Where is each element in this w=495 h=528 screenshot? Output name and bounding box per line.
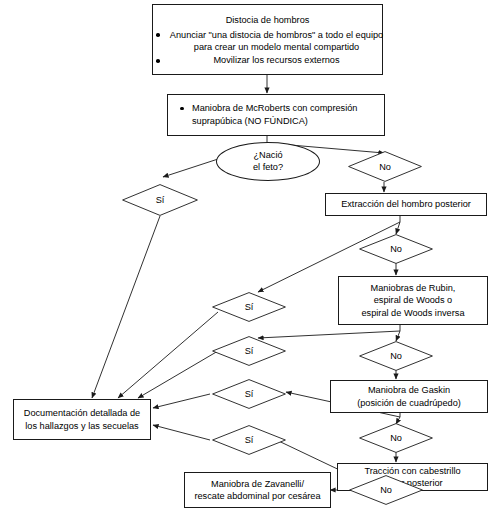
start-box-title: Distocia de hombros — [226, 11, 310, 28]
no-5-label: No — [380, 485, 392, 495]
node-no-1: No — [348, 151, 422, 182]
node-no-4: No — [359, 423, 433, 453]
mcroberts-bullets: Maniobra de McRoberts con compresión sup… — [168, 102, 384, 128]
no-2-label: No — [390, 244, 402, 254]
node-was-fetus-born-question: ¿Nació el feto? — [216, 142, 320, 181]
node-no-2: No — [359, 234, 433, 264]
node-no-5: No — [349, 475, 423, 505]
gaskin-label: Maniobra de Gaskin (posición de cuadrúpe… — [353, 384, 465, 408]
node-yes-a: Sí — [212, 292, 286, 322]
node-yes-c: Sí — [212, 379, 286, 409]
yes-a-label: Sí — [245, 302, 254, 312]
yes-left-label: Sí — [156, 195, 165, 205]
yes-c-label: Sí — [245, 389, 254, 399]
documentation-label: Documentación detallada de los hallazgos… — [20, 407, 144, 431]
start-bullet-2: Movilizar los recursos externos — [156, 54, 385, 66]
node-yes-b: Sí — [212, 336, 286, 366]
posterior-shoulder-label: Extracción del hombro posterior — [337, 198, 475, 210]
node-yes-d: Sí — [212, 425, 286, 455]
node-yes-left: Sí — [122, 184, 198, 216]
mcroberts-bullet-1: Maniobra de McRoberts con compresión sup… — [180, 102, 378, 127]
no-3-label: No — [390, 351, 402, 361]
node-mcroberts-maneuver: Maniobra de McRoberts con compresión sup… — [167, 94, 385, 136]
node-documentation: Documentación detallada de los hallazgos… — [13, 399, 151, 440]
start-box-bullets: Anunciar "una distocia de hombros" a tod… — [144, 29, 391, 68]
yes-b-label: Sí — [245, 346, 254, 356]
node-zavanelli-maneuver: Maniobra de Zavanelli/ rescate abdominal… — [184, 472, 331, 508]
rubin-woods-label: Maniobras de Rubin, espiral de Woods o e… — [358, 282, 469, 319]
zavanelli-label: Maniobra de Zavanelli/ rescate abdominal… — [190, 478, 324, 502]
node-no-3: No — [359, 341, 433, 371]
no-1-label: No — [379, 162, 391, 172]
start-bullet-1: Anunciar "una distocia de hombros" a tod… — [156, 29, 385, 54]
node-shoulder-dystocia-start: Distocia de hombros Anunciar "una distoc… — [152, 4, 383, 75]
node-posterior-shoulder-extraction: Extracción del hombro posterior — [325, 193, 487, 216]
node-rubin-woods-maneuvers: Maniobras de Rubin, espiral de Woods o e… — [338, 276, 488, 325]
no-4-label: No — [390, 433, 402, 443]
node-gaskin-maneuver: Maniobra de Gaskin (posición de cuadrúpe… — [330, 380, 488, 413]
flowchart-canvas: Distocia de hombros Anunciar "una distoc… — [0, 0, 495, 528]
yes-d-label: Sí — [245, 435, 254, 445]
